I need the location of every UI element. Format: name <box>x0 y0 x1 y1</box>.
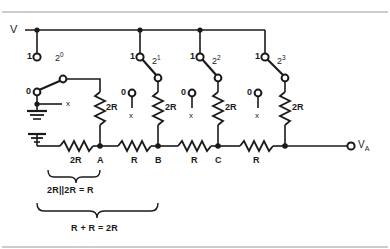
node-dot-a <box>97 143 103 149</box>
annotation-brace2: R + R = 2R <box>71 224 118 233</box>
terminal-one-label-b0: 1 <box>27 52 32 61</box>
terminal-zero-b1 <box>129 90 136 97</box>
output-terminal-va <box>347 142 354 149</box>
resistor-r-ab <box>118 141 151 151</box>
terminal-zero-label-b1: 0 <box>121 88 126 97</box>
rail-junction-dot <box>197 27 202 32</box>
brace-1 <box>48 170 100 183</box>
resistor-label-b0: 2R <box>106 103 118 112</box>
weight-label-b3: 23 <box>277 55 286 66</box>
resistor-2r-b3 <box>280 92 290 125</box>
x-label-b0: x <box>66 100 70 108</box>
resistor-label-b3: 2R <box>292 103 304 112</box>
resistor-r-bc <box>178 141 211 151</box>
branch-b2[interactable] <box>189 53 223 146</box>
resistor-label-cd: R <box>253 156 260 165</box>
supply-rail <box>25 27 265 53</box>
terminal-zero-label-b2: 0 <box>181 88 186 97</box>
resistor-label-b1: 2R <box>165 103 177 112</box>
terminal-one-label-b1: 1 <box>130 52 135 61</box>
supply-label: V <box>10 24 17 35</box>
x-label-b1: x <box>129 112 133 120</box>
weight-label-b2: 22 <box>212 55 221 66</box>
resistor-label-ab: R <box>131 156 138 165</box>
node-dot-b <box>155 143 161 149</box>
node-label-a: A <box>97 156 104 165</box>
terminal-one-b0 <box>33 53 40 60</box>
resistor-label-b2: 2R <box>225 103 237 112</box>
resistor-2r-b2 <box>213 92 223 125</box>
weight-label-b1: 21 <box>152 55 161 66</box>
switch-pole-b0 <box>60 76 67 83</box>
ladder-rail <box>28 134 355 151</box>
x-label-b3: x <box>255 112 259 120</box>
resistor-r-cd <box>240 141 273 151</box>
annotation-brace1: 2R||2R = R <box>47 186 94 195</box>
ground-symbol-b0 <box>27 111 47 119</box>
node-label-b: B <box>155 156 162 165</box>
resistor-2r-b1 <box>153 92 163 125</box>
output-label-va: VA <box>358 140 369 152</box>
resistor-label-terminator: 2R <box>70 156 82 165</box>
switch-blade-b0 <box>39 80 62 90</box>
resistor-2r-terminator <box>60 141 93 151</box>
rail-junction-dot <box>137 27 142 32</box>
terminal-zero-label-b0: 0 <box>26 87 31 96</box>
branch-wire-b0 <box>66 79 100 92</box>
resistor-label-bc: R <box>191 156 198 165</box>
switch-pole-b1 <box>155 75 162 82</box>
terminal-zero-b2 <box>189 90 196 97</box>
x-label-b2: x <box>189 112 193 120</box>
circuit-figure: V 1 20 0 x 2R 1 21 0 x 2R 1 22 0 x 2R 1 … <box>0 0 390 249</box>
branch-b1[interactable] <box>129 53 163 146</box>
terminal-one-label-b3: 1 <box>255 52 260 61</box>
node-dot-d <box>282 143 288 149</box>
terminal-zero-label-b3: 0 <box>247 88 252 97</box>
switch-pole-b2 <box>215 75 222 82</box>
switch-pole-b3 <box>282 75 289 82</box>
node-dot-c <box>215 143 221 149</box>
node-label-c: C <box>215 156 222 165</box>
branch-b3[interactable] <box>255 53 290 146</box>
resistor-2r-b0 <box>95 92 105 125</box>
brace-2 <box>37 203 158 218</box>
weight-label-b0: 20 <box>55 52 64 63</box>
terminal-zero-b3 <box>255 90 262 97</box>
circuit-schematic-svg <box>0 0 390 249</box>
terminal-one-label-b2: 1 <box>190 52 195 61</box>
rail-junction-dot <box>34 27 39 32</box>
